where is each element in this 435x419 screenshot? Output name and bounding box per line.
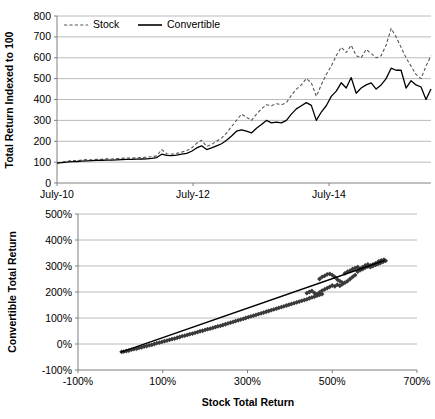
y-tick-label: 800 <box>33 10 51 22</box>
y-tick-label: 500 <box>33 72 51 84</box>
series-line-stock <box>57 29 431 163</box>
y-tick-label: 200% <box>45 286 72 298</box>
scatter-trend-line <box>120 260 385 352</box>
legend-label-convertible: Convertible <box>167 18 220 30</box>
x-tick-label: 100% <box>149 375 176 387</box>
x-tick-label: July-10 <box>40 188 74 200</box>
line-chart-x-tick-labels: July-10July-12July-14 <box>40 188 346 200</box>
line-chart-legend: Stock Convertible <box>64 18 220 30</box>
x-tick-label: 500% <box>319 375 346 387</box>
line-chart-panel: 0100200300400500600700800 July-10July-12… <box>0 0 435 205</box>
y-tick-label: 0% <box>57 338 72 350</box>
x-tick-label: July-14 <box>312 188 346 200</box>
scatter-chart-y-tick-labels: -100%0%100%200%300%400%500% <box>42 208 72 376</box>
x-tick-label: July-12 <box>176 188 210 200</box>
y-tick-label: 500% <box>45 208 72 220</box>
chart-figure: 0100200300400500600700800 July-10July-12… <box>0 0 435 419</box>
line-chart-svg: 0100200300400500600700800 July-10July-12… <box>0 0 435 205</box>
line-chart-y-axis-title: Total Return Indexed to 100 <box>3 31 15 168</box>
y-tick-label: 600 <box>33 51 51 63</box>
y-tick-label: 100% <box>45 312 72 324</box>
y-tick-label: 700 <box>33 30 51 42</box>
scatter-chart-panel: -100%0%100%200%300%400%500% -100%100%300… <box>0 205 435 419</box>
x-tick-label: 300% <box>234 375 261 387</box>
scatter-chart-y-axis-title: Convertible Total Return <box>6 231 18 353</box>
scatter-chart-svg: -100%0%100%200%300%400%500% -100%100%300… <box>0 205 435 419</box>
y-tick-label: 300% <box>45 260 72 272</box>
line-chart-y-tick-labels: 0100200300400500600700800 <box>33 10 51 189</box>
scatter-chart-x-axis-title: Stock Total Return <box>202 396 295 408</box>
line-chart-gridlines <box>57 16 431 162</box>
x-tick-label: -100% <box>63 375 93 387</box>
y-tick-label: 400% <box>45 234 72 246</box>
scatter-chart-gridlines <box>78 214 417 344</box>
scatter-chart-x-tick-labels: -100%100%300%500%700% <box>63 375 431 387</box>
y-tick-label: 300 <box>33 114 51 126</box>
y-tick-label: 100 <box>33 156 51 168</box>
y-tick-label: 0 <box>45 177 51 189</box>
y-tick-label: -100% <box>42 364 72 376</box>
legend-label-stock: Stock <box>93 18 120 30</box>
y-tick-label: 400 <box>33 93 51 105</box>
x-tick-label: 700% <box>404 375 431 387</box>
y-tick-label: 200 <box>33 135 51 147</box>
